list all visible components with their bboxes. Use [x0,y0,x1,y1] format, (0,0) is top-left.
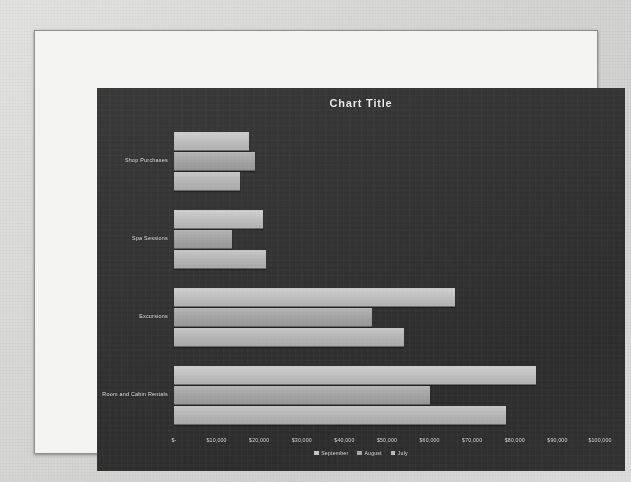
bar-july-room-and-cabin-rentals[interactable] [174,406,506,425]
category-group: Spa Sessions [174,210,600,267]
legend-item-july[interactable]: July [391,450,408,456]
x-tick-label: $20,000 [249,437,269,443]
bar-july-excursions[interactable] [174,328,404,347]
bar-july-spa-sessions[interactable] [174,250,266,269]
chart-legend: SeptemberAugustJuly [97,450,625,456]
x-axis-tick-labels: $-$10,000$20,000$30,000$40,000$50,000$60… [174,437,600,449]
bar-september-excursions[interactable] [174,288,455,307]
category-group: Room and Cabin Rentals [174,366,600,423]
x-tick-label: $10,000 [207,437,227,443]
bar-august-excursions[interactable] [174,308,372,327]
bar-september-spa-sessions[interactable] [174,210,263,229]
bar-september-shop-purchases[interactable] [174,132,249,151]
bar-august-shop-purchases[interactable] [174,152,255,171]
legend-swatch-icon [314,451,319,456]
x-tick-label: $30,000 [292,437,312,443]
category-group: Shop Purchases [174,132,600,189]
x-tick-label: $90,000 [547,437,567,443]
bar-august-room-and-cabin-rentals[interactable] [174,386,430,405]
bar-july-shop-purchases[interactable] [174,172,240,191]
legend-item-september[interactable]: September [314,450,348,456]
category-axis-label: Shop Purchases [125,157,168,163]
x-tick-label: $100,000 [588,437,611,443]
category-group: Excursions [174,288,600,345]
category-axis-label: Spa Sessions [132,235,168,241]
x-tick-label: $60,000 [420,437,440,443]
category-axis-label: Excursions [139,313,168,319]
x-tick-label: $- [171,437,176,443]
chart-title: Chart Title [97,97,625,109]
bar-august-spa-sessions[interactable] [174,230,232,249]
x-tick-label: $70,000 [462,437,482,443]
legend-swatch-icon [357,451,362,456]
legend-label: August [364,450,381,456]
x-tick-label: $40,000 [334,437,354,443]
category-axis-label: Room and Cabin Rentals [102,391,168,397]
legend-item-august[interactable]: August [357,450,381,456]
bars-container: Shop PurchasesSpa SessionsExcursionsRoom… [174,121,600,434]
bar-september-room-and-cabin-rentals[interactable] [174,366,536,385]
legend-label: July [398,450,408,456]
legend-label: September [321,450,348,456]
chart-plot-region: Chart Title Shop PurchasesSpa SessionsEx… [97,88,625,471]
slide-frame: Chart Title Shop PurchasesSpa SessionsEx… [34,30,598,454]
x-tick-label: $80,000 [505,437,525,443]
x-tick-label: $50,000 [377,437,397,443]
legend-swatch-icon [391,451,396,456]
